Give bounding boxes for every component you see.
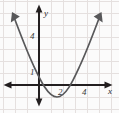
x-tick-label-4: 4 [82,88,87,97]
y-axis [36,5,43,107]
y-tick-label-1: 1 [30,68,35,77]
x-tick-label-2: 2 [58,88,63,97]
y-tick-label-4: 4 [30,32,35,41]
y-axis-label: y [44,9,48,18]
parabola-graph-figure: 4 1 2 4 x y [0,0,119,113]
x-axis-label: x [108,87,112,96]
